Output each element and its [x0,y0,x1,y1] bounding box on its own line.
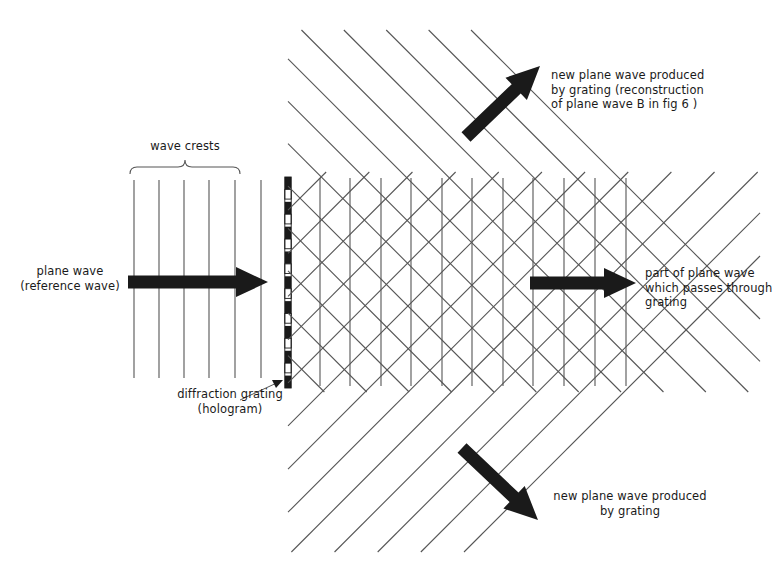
grating-segment-13 [285,338,291,348]
grating-segment-5 [285,239,291,249]
grating-segment-14 [285,351,291,363]
wave-crests-label: wave crests [122,139,248,154]
diffracted-down-arrow [458,443,539,520]
diffracted-up-wavefront-11 [288,313,367,392]
plane-wave-label: plane wave (reference wave) [14,264,126,293]
transmitted-beam-arrow [530,268,636,298]
grating-segment-15 [285,363,291,373]
grating-segment-8 [285,276,291,288]
diffracted-up-wavefront-8 [288,186,494,392]
grating-segment-1 [285,189,291,199]
diffracted-down-wavefront-6 [288,172,542,426]
diffracted-up-wavefront-6 [288,101,579,392]
grating-segment-6 [285,251,291,263]
diffracted-up-wavefront-9 [288,228,452,392]
grating-segment-10 [285,301,291,313]
incident-beam-arrow [128,267,268,297]
grating-segment-3 [285,214,291,224]
transmitted-wave-label: part of plane wave which passes through … [645,266,783,310]
diffracted-down-wavefront-8 [288,172,628,512]
wave-crests-brace [130,160,240,174]
beam-arrows [128,66,636,520]
diffraction-grating-label: diffraction grating (hologram) [152,387,308,416]
diffracted-down-wavefront-7 [288,172,585,469]
new-plane-wave-up-label: new plane wave produced by grating (reco… [551,68,779,112]
diffracted-up-wavefront-7 [288,144,536,392]
grating-segment-7 [285,264,291,274]
new-plane-wave-down-label: new plane wave produced by grating [527,489,733,518]
grating-segment-12 [285,326,291,338]
figure-canvas: wave crests plane wave (reference wave) … [0,0,783,582]
diffracted-down-wavefront-4 [288,172,456,340]
